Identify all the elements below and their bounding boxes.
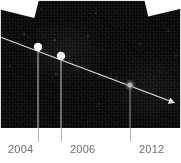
- figure-root: 2004 2006 2012: [0, 0, 181, 163]
- data-point-2006[interactable]: [57, 52, 65, 60]
- axis-label-2012: 2012: [139, 142, 164, 156]
- data-point-2004[interactable]: [34, 43, 42, 51]
- data-point-2012[interactable]: [127, 82, 132, 87]
- axis-label-2006: 2006: [70, 142, 95, 156]
- trend-arrow: [0, 37, 170, 101]
- axis-tick-2006: [61, 128, 62, 142]
- axis-tick-2012: [130, 128, 131, 142]
- astronomical-image-panel: [0, 0, 181, 128]
- axis-label-row: 2004 2006 2012: [0, 128, 181, 163]
- axis-tick-2004: [38, 128, 39, 142]
- annotation-overlay: [0, 0, 181, 128]
- axis-label-2004: 2004: [8, 142, 33, 156]
